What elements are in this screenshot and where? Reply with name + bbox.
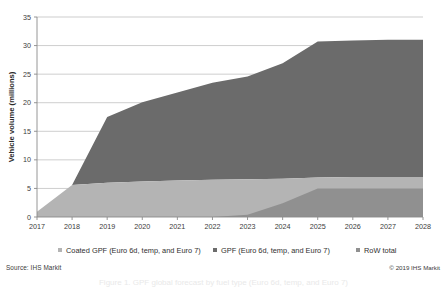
x-tick-label: 2018 [64, 222, 80, 231]
x-tick-label: 2028 [415, 222, 431, 231]
legend-label: RoW total [364, 246, 396, 255]
y-tick-label: 0 [27, 213, 31, 222]
y-tick-label: 35 [23, 13, 31, 22]
legend-label: GPF (Euro 6d, temp, and Euro 7) [221, 246, 330, 255]
chart-plot-area: 05101520253035 2017201820192020202120222… [0, 0, 447, 240]
x-tick-label: 2019 [99, 222, 115, 231]
figure-caption: Figure 1. GPF global forecast by fuel ty… [0, 278, 447, 288]
x-tick-label: 2024 [275, 222, 291, 231]
y-tick-label: 20 [23, 98, 31, 107]
y-axis-title: Vehicle volume (millions) [7, 71, 16, 162]
source-note: Source: IHS Markit [6, 264, 61, 271]
y-tick-label: 10 [23, 155, 31, 164]
legend-item-row-total[interactable]: RoW total [356, 246, 396, 255]
y-tick-label: 15 [23, 127, 31, 136]
x-tick-label: 2026 [345, 222, 361, 231]
chart-figure: 05101520253035 2017201820192020202120222… [0, 0, 447, 288]
copyright-note: © 2019 IHS Markit [389, 264, 440, 271]
area-series-group [37, 40, 423, 217]
legend-swatch-icon [356, 248, 360, 252]
x-tick-label: 2022 [204, 222, 220, 231]
x-tick-label: 2023 [240, 222, 256, 231]
y-tick-label: 30 [23, 41, 31, 50]
legend-swatch-icon [58, 248, 62, 252]
x-tick-label: 2020 [134, 222, 150, 231]
x-tick-label: 2021 [169, 222, 185, 231]
x-tick-label: 2025 [310, 222, 326, 231]
chart-legend: Coated GPF (Euro 6d, temp, and Euro 7) G… [0, 241, 447, 259]
x-axis-tick-labels: 2017201820192020202120222023202420252026… [29, 222, 431, 231]
legend-item-gpf[interactable]: GPF (Euro 6d, temp, and Euro 7) [213, 246, 330, 255]
stacked-area-chart: 05101520253035 2017201820192020202120222… [0, 0, 447, 240]
chart-footer: Source: IHS Markit © 2019 IHS Markit [0, 264, 447, 276]
x-tick-label: 2017 [29, 222, 45, 231]
legend-swatch-icon [213, 248, 217, 252]
x-tick-label: 2027 [380, 222, 396, 231]
y-tick-label: 5 [27, 184, 31, 193]
legend-label: Coated GPF (Euro 6d, temp, and Euro 7) [66, 246, 201, 255]
y-tick-label: 25 [23, 70, 31, 79]
legend-item-coated-gpf[interactable]: Coated GPF (Euro 6d, temp, and Euro 7) [58, 246, 201, 255]
y-axis-tick-labels: 05101520253035 [23, 13, 31, 222]
